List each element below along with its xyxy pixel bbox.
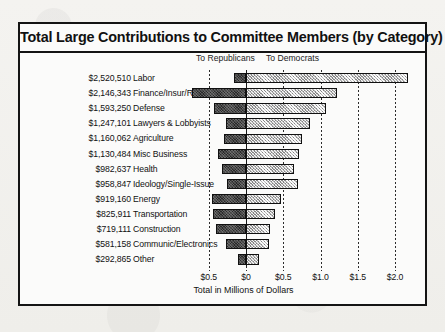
x-axis: Total in Millions of Dollars $0.5$0$0.5$… — [20, 266, 425, 306]
plot-area: $2,520,510Labor$2,146,343Finance/Insur/R… — [20, 70, 425, 266]
bar-democrats — [246, 179, 298, 189]
row-category-label: Ideology/Single-Issue — [133, 179, 214, 189]
row-category-label: Lawyers & Lobbyists — [133, 118, 211, 128]
row-total-amount: $2,146,343 — [89, 88, 131, 98]
axis-tick-label: $0.5 — [200, 272, 217, 282]
chart-title: Total Large Contributions to Committee M… — [20, 29, 425, 45]
row-category-label: Communic/Electronics — [133, 239, 217, 249]
bar-democrats — [246, 224, 270, 234]
chart-row: $982,637Health — [20, 162, 425, 177]
row-total-amount: $919,160 — [96, 194, 131, 204]
bar-republicans — [213, 209, 246, 219]
bar-democrats — [246, 134, 302, 144]
axis-tick-label: $1.5 — [349, 272, 366, 282]
row-total-amount: $1,130,484 — [89, 149, 131, 159]
bar-republicans — [227, 179, 246, 189]
bar-republicans — [214, 103, 246, 113]
bar-democrats — [246, 118, 310, 128]
row-total-amount: $1,593,250 — [89, 103, 131, 113]
legend: To Republicans To Democrats — [20, 53, 425, 69]
row-category-label: Transportation — [133, 209, 187, 219]
chart-row: $1,247,101Lawyers & Lobbyists — [20, 116, 425, 131]
chart-row: $958,847Ideology/Single-Issue — [20, 177, 425, 192]
bar-republicans — [218, 149, 246, 159]
row-total-amount: $982,637 — [96, 164, 131, 174]
bar-republicans — [216, 224, 246, 234]
row-total-amount: $2,520,510 — [89, 73, 131, 83]
axis-tick — [358, 266, 359, 271]
bar-democrats — [246, 164, 294, 174]
bar-republicans — [222, 164, 246, 174]
row-category-label: Energy — [133, 194, 160, 204]
bar-democrats — [246, 73, 408, 83]
chart-row: $2,520,510Labor — [20, 71, 425, 86]
row-total-amount: $825,911 — [96, 209, 131, 219]
bar-republicans — [234, 73, 246, 83]
bar-democrats — [246, 254, 259, 264]
x-axis-title: Total in Millions of Dollars — [20, 285, 425, 295]
chart-row: $1,130,484Misc Business — [20, 147, 425, 162]
row-category-label: Misc Business — [133, 149, 187, 159]
axis-tick-label: $1.0 — [312, 272, 329, 282]
bar-republicans — [192, 88, 246, 98]
axis-tick-label: $0.5 — [275, 272, 292, 282]
row-total-amount: $1,247,101 — [89, 118, 131, 128]
row-total-amount: $958,847 — [96, 179, 131, 189]
axis-tick — [321, 266, 322, 271]
row-category-label: Labor — [133, 73, 155, 83]
bar-democrats — [246, 194, 281, 204]
chart-row: $1,593,250Defense — [20, 101, 425, 116]
row-category-label: Health — [133, 164, 158, 174]
chart-row: $581,158Communic/Electronics — [20, 237, 425, 252]
row-category-label: Construction — [133, 224, 181, 234]
bar-republicans — [226, 239, 246, 249]
row-total-amount: $292,865 — [96, 254, 131, 264]
bar-democrats — [246, 209, 275, 219]
axis-tick — [246, 266, 247, 271]
chart-row: $919,160Energy — [20, 192, 425, 207]
bar-republicans — [212, 194, 246, 204]
bar-democrats — [246, 149, 299, 159]
chart-row: $719,111Construction — [20, 222, 425, 237]
row-total-amount: $581,158 — [96, 239, 131, 249]
row-category-label: Other — [133, 254, 154, 264]
chart-row: $825,911Transportation — [20, 207, 425, 222]
bar-democrats — [246, 88, 337, 98]
chart-row: $1,160,062Agriculture — [20, 131, 425, 146]
bar-republicans — [224, 134, 246, 144]
axis-tick-label: $2.0 — [387, 272, 404, 282]
axis-tick — [283, 266, 284, 271]
row-category-label: Defense — [133, 103, 165, 113]
row-category-label: Agriculture — [133, 133, 173, 143]
chart-frame: Total Large Contributions to Committee M… — [18, 22, 427, 306]
bar-democrats — [246, 103, 326, 113]
legend-item-republicans: To Republicans — [196, 53, 255, 63]
row-total-amount: $719,111 — [97, 224, 131, 234]
chart-row: $2,146,343Finance/Insur/Real Est — [20, 86, 425, 101]
row-total-amount: $1,160,062 — [89, 133, 131, 143]
axis-tick — [209, 266, 210, 271]
axis-tick — [395, 266, 396, 271]
legend-item-democrats: To Democrats — [266, 53, 319, 63]
bar-republicans — [226, 118, 246, 128]
bar-democrats — [246, 239, 269, 249]
axis-tick-label: $0 — [241, 272, 250, 282]
bar-republicans — [238, 254, 246, 264]
